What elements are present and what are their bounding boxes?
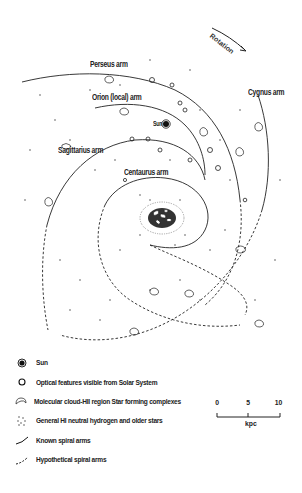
legend-item-optical: Optical features visible from Solar Syst… (14, 372, 204, 391)
cloud-outline-icon (14, 395, 28, 407)
sagittarius-arm-label: Sagittarius arm (58, 146, 103, 155)
spiral-arms-diagram (0, 0, 302, 380)
legend-label: Known spiral arms (36, 436, 91, 445)
cloud-complexes (45, 76, 264, 335)
scale-unit: kpc (245, 419, 257, 428)
sun-marker (162, 120, 170, 128)
hi-dots (24, 59, 280, 320)
dots-icon (14, 415, 30, 427)
solid-line-icon (14, 434, 30, 446)
dashed-line-icon (14, 454, 30, 466)
cygnus-arm-line (258, 95, 268, 210)
scale-line (214, 398, 294, 420)
orion-arm-label: Orion (local) arm (92, 93, 142, 102)
legend-item-hi: General HI neutral hydrogen and older st… (14, 411, 204, 430)
sun-filled-circle-icon (14, 357, 30, 369)
galactic-center-bulge (140, 202, 184, 234)
open-circle-icon (14, 376, 30, 388)
legend: Sun Optical features visible from Solar … (14, 353, 204, 469)
legend-item-sun: Sun (14, 353, 204, 372)
legend-item-known-arms: Known spiral arms (14, 431, 204, 450)
galaxy-map: Rotation Perseus arm Orion (local) arm S… (0, 0, 302, 380)
legend-item-cloud: Molecular cloud-HII region Star forming … (14, 392, 204, 411)
legend-label: Optical features visible from Solar Syst… (36, 378, 157, 387)
centaurus-arm-label: Centaurus arm (124, 168, 168, 177)
legend-label: Molecular cloud-HII region Star forming … (34, 397, 181, 406)
legend-label: Hypothetical spiral arms (36, 455, 106, 464)
perseus-arm-label: Perseus arm (90, 60, 128, 69)
legend-item-hypothetical-arms: Hypothetical spiral arms (14, 450, 204, 469)
scale-bar: 0 5 10 kpc (214, 398, 294, 428)
legend-label: General HI neutral hydrogen and older st… (36, 416, 162, 425)
cygnus-arm-label: Cygnus arm (248, 88, 284, 97)
legend-label: Sun (36, 358, 48, 367)
sun-label: Sun (153, 120, 162, 127)
